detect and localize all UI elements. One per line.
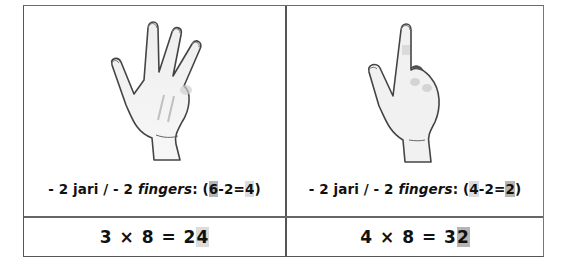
highlight-result: 2 — [505, 181, 515, 197]
highlight-total-fingers: 4 — [469, 181, 479, 197]
equation-text: 3 × 8 = 2 — [100, 227, 197, 247]
caption-fingers-word: fingers — [138, 181, 192, 197]
equation-highlight-digit: 2 — [457, 227, 470, 247]
one-finger-hand-icon — [365, 10, 465, 175]
equation-left: 3 × 8 = 24 — [24, 227, 285, 247]
cell-right-caption: - 2 jari / - 2 fingers: (4-2=2) — [287, 181, 543, 197]
caption-fingers-word: fingers — [398, 181, 452, 197]
paren-open: ( — [203, 181, 209, 197]
equation-text: 4 × 8 = 3 — [360, 227, 457, 247]
caption-prefix: - 2 jari / - 2 — [309, 181, 399, 197]
caption-operator: -2= — [479, 181, 506, 197]
cell-right-equation: 4 × 8 = 32 — [287, 218, 543, 256]
paren-close: ) — [254, 181, 260, 197]
cell-left-equation: 3 × 8 = 24 — [24, 218, 285, 256]
cell-right-illustration: - 2 jari / - 2 fingers: (4-2=2) — [287, 6, 543, 216]
equation-highlight-digit: 4 — [196, 227, 209, 247]
highlight-total-fingers: 6 — [209, 181, 219, 197]
caption-colon: : — [192, 181, 202, 197]
caption-colon: : — [453, 181, 463, 197]
cell-left-caption: - 2 jari / - 2 fingers: (6-2=4) — [24, 181, 285, 197]
four-fingers-hand-icon — [96, 10, 216, 175]
caption-prefix: - 2 jari / - 2 — [48, 181, 138, 197]
paren-close: ) — [515, 181, 521, 197]
finger-math-table: - 2 jari / - 2 fingers: (6-2=4) - 2 jari… — [23, 5, 544, 257]
cell-left-illustration: - 2 jari / - 2 fingers: (6-2=4) — [24, 6, 285, 216]
caption-operator: -2= — [218, 181, 245, 197]
equation-right: 4 × 8 = 32 — [287, 227, 543, 247]
